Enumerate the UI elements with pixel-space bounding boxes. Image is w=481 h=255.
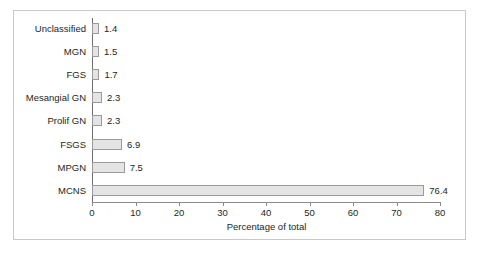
x-axis-tick xyxy=(136,202,137,206)
x-axis-tick xyxy=(179,202,180,206)
x-axis-tick-label: 70 xyxy=(377,207,417,218)
bar xyxy=(92,162,125,173)
x-axis-tick-label: 50 xyxy=(290,207,330,218)
category-label: Mesangial GN xyxy=(0,92,86,103)
x-axis-tick-label: 40 xyxy=(246,207,286,218)
category-label: FSGS xyxy=(0,139,86,150)
bar-row: MCNS76.4 xyxy=(0,180,481,201)
x-axis-tick-label: 0 xyxy=(72,207,112,218)
bar-value-label: 2.3 xyxy=(107,92,120,103)
bar-value-label: 1.4 xyxy=(104,23,117,34)
category-label: MPGN xyxy=(0,162,86,173)
x-axis-tick xyxy=(92,202,93,206)
bar-row: FGS1.7 xyxy=(0,64,481,85)
bar xyxy=(92,92,102,103)
x-axis-tick-label: 30 xyxy=(203,207,243,218)
x-axis-tick-label: 10 xyxy=(116,207,156,218)
x-axis-tick xyxy=(310,202,311,206)
x-axis-tick xyxy=(266,202,267,206)
bar-row: FSGS6.9 xyxy=(0,134,481,155)
x-axis-tick xyxy=(440,202,441,206)
bar-value-label: 1.7 xyxy=(104,69,117,80)
x-axis-tick xyxy=(353,202,354,206)
bar-chart-plot-area: Unclassified1.4MGN1.5FGS1.7Mesangial GN2… xyxy=(0,0,481,255)
bar-row: Prolif GN2.3 xyxy=(0,110,481,131)
bar-row: Mesangial GN2.3 xyxy=(0,87,481,108)
category-label: Unclassified xyxy=(0,23,86,34)
x-axis-tick xyxy=(223,202,224,206)
bar-value-label: 2.3 xyxy=(107,115,120,126)
x-axis-tick-label: 80 xyxy=(420,207,460,218)
bar xyxy=(92,139,122,150)
category-label: MGN xyxy=(0,46,86,57)
bar xyxy=(92,23,99,34)
bar-row: MPGN7.5 xyxy=(0,157,481,178)
bar xyxy=(92,115,102,126)
bar-value-label: 6.9 xyxy=(127,139,140,150)
bar xyxy=(92,185,424,196)
x-axis-tick xyxy=(397,202,398,206)
category-label: FGS xyxy=(0,69,86,80)
bar-row: MGN1.5 xyxy=(0,41,481,62)
bar xyxy=(92,46,99,57)
bar-value-label: 1.5 xyxy=(104,46,117,57)
x-axis-title: Percentage of total xyxy=(92,221,441,232)
bar-row: Unclassified1.4 xyxy=(0,18,481,39)
category-label: Prolif GN xyxy=(0,115,86,126)
x-axis-tick-label: 60 xyxy=(333,207,373,218)
bar-value-label: 76.4 xyxy=(429,185,448,196)
bar-value-label: 7.5 xyxy=(130,162,143,173)
category-label: MCNS xyxy=(0,185,86,196)
bar xyxy=(92,69,99,80)
x-axis-tick-label: 20 xyxy=(159,207,199,218)
